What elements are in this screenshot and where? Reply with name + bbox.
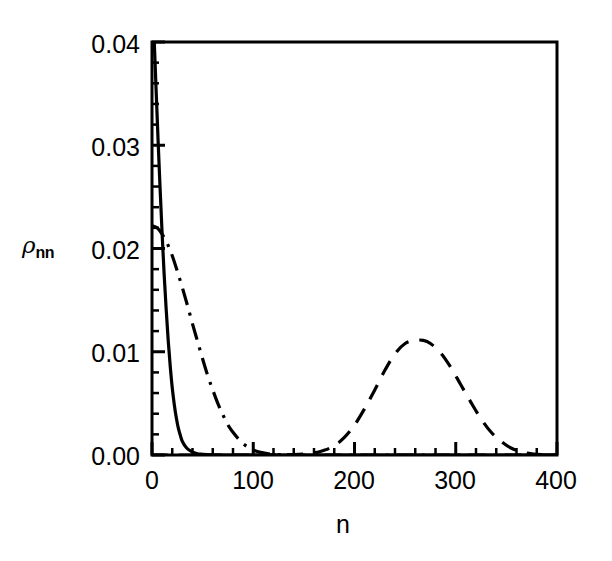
curve-solid-narrow-decay (152, 0, 557, 455)
curve-dashed-gaussian-bump (152, 340, 557, 455)
curve-dashdot-broad-decay (152, 226, 557, 455)
data-curves (152, 0, 557, 455)
chart-figure: ρnn n 0.04 0.03 0.02 0.01 0.00 0 100 200… (0, 0, 612, 561)
plot-area (0, 0, 612, 561)
